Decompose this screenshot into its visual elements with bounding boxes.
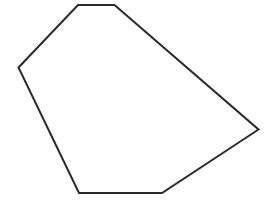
diagram-canvas <box>0 0 271 201</box>
hexagon-shape <box>19 5 259 193</box>
